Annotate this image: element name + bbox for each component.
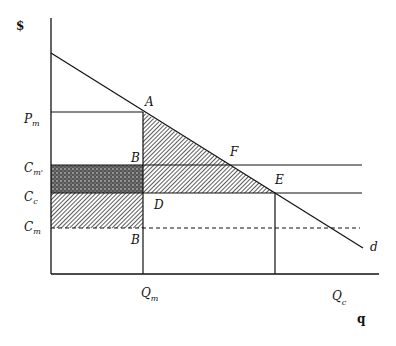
dotted-rectangle-cm-prime-cc [51, 165, 143, 193]
economics-diagram: $ q Pm Cm' Cc Cm Qm Qc A B F E D B d [0, 0, 396, 346]
y-axis-label: $ [16, 19, 24, 33]
cm-prime-label: Cm' [24, 161, 43, 177]
demand-curve-label: d [370, 240, 378, 254]
point-e-label: E [274, 173, 284, 187]
hatched-rectangle-cc-cm [51, 193, 143, 228]
cc-label: Cc [24, 190, 38, 206]
point-f-label: F [229, 145, 239, 159]
cm-label: Cm [24, 220, 41, 236]
point-d-label: D [153, 198, 164, 212]
x-axis-label: q [357, 312, 366, 326]
point-a-label: A [144, 95, 154, 109]
qc-label: Qc [332, 289, 347, 307]
pm-label: Pm [23, 112, 40, 128]
point-b-upper-label: B [130, 151, 140, 165]
point-b-lower-label: B [130, 233, 140, 247]
qm-label: Qm [141, 286, 159, 303]
